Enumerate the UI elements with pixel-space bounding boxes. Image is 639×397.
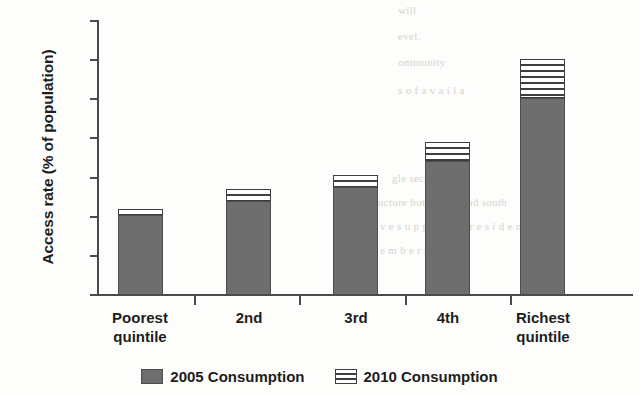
- bar-2nd[interactable]: [226, 189, 271, 295]
- bar-segment-2005: [226, 201, 271, 295]
- x-label-line: Poorest: [88, 308, 192, 327]
- bar-richest-quintile[interactable]: [520, 59, 565, 295]
- x-label-3rd: 3rd: [304, 308, 408, 327]
- x-label-poorest-quintile: Poorest quintile: [88, 308, 192, 346]
- bar-segment-2005: [333, 187, 378, 295]
- bar-segment-2010: [118, 209, 163, 215]
- x-label-2nd: 2nd: [197, 308, 301, 327]
- bar-segment-2010: [226, 189, 271, 201]
- bar-segment-2010: [425, 142, 470, 161]
- bar-4th[interactable]: [425, 142, 470, 295]
- x-label-line: quintile: [88, 327, 192, 346]
- x-label-line: 4th: [396, 308, 500, 327]
- solid-gray-swatch-icon: [141, 369, 163, 384]
- legend-item-2010[interactable]: 2010 Consumption: [335, 368, 498, 385]
- x-label-line: Richest: [491, 308, 595, 327]
- x-tick-mark: [194, 296, 196, 305]
- bar-segment-2005: [425, 161, 470, 295]
- x-label-richest-quintile: Richest quintile: [491, 308, 595, 346]
- x-tick-mark: [510, 296, 512, 305]
- legend-label: 2010 Consumption: [364, 368, 498, 385]
- bar-poorest-quintile[interactable]: [118, 209, 163, 295]
- legend-item-2005[interactable]: 2005 Consumption: [141, 368, 304, 385]
- x-tick-mark: [299, 296, 301, 305]
- legend-label: 2005 Consumption: [170, 368, 304, 385]
- x-label-line: 3rd: [304, 308, 408, 327]
- bar-segment-2010: [520, 59, 565, 98]
- x-tick-mark: [405, 296, 407, 305]
- chart-page: will evel. ommunity s o f a v a i l a gl…: [0, 0, 639, 397]
- bar-3rd[interactable]: [333, 175, 378, 295]
- bar-segment-2005: [118, 215, 163, 295]
- bar-segment-2005: [520, 98, 565, 295]
- striped-swatch-icon: [335, 369, 357, 384]
- chart-legend: 2005 Consumption 2010 Consumption: [0, 368, 639, 385]
- x-label-line: quintile: [491, 327, 595, 346]
- x-label-4th: 4th: [396, 308, 500, 327]
- plot-area: [0, 0, 639, 295]
- x-label-line: 2nd: [197, 308, 301, 327]
- bar-segment-2010: [333, 175, 378, 187]
